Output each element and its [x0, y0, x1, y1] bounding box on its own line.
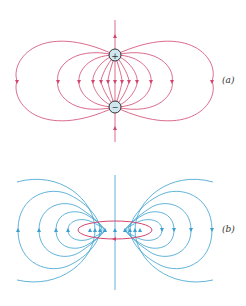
magnetic-field-lines: [17, 175, 213, 290]
svg-text:+: +: [111, 51, 119, 61]
svg-text:−: −: [112, 103, 119, 112]
negative-charge: −: [109, 101, 121, 113]
field-diagram: + −: [0, 0, 246, 306]
panel-a-label: (a): [222, 75, 234, 85]
panel-b-label: (b): [222, 224, 235, 234]
positive-charge: +: [109, 49, 121, 61]
